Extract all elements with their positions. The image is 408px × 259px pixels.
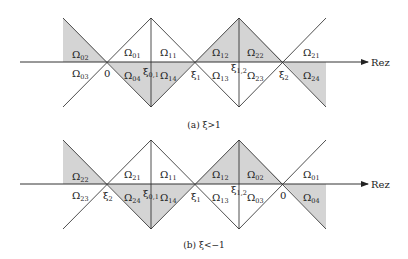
caption-a: (a) ξ>1 [187,120,220,130]
label-omega23-b: Ω23 [72,190,89,203]
riemann-hilbert-contour-figure: Rez Ω02 Ω03 Ω01 Ω04 Ω11 Ω14 Ω12 Ω13 Ω22 … [0,0,408,259]
label-omega01-a: Ω01 [124,47,141,60]
label-omega21-b: Ω21 [124,169,141,182]
label-omega11-a: Ω11 [160,47,177,60]
axis-label-b: Rez [371,179,390,190]
label-omega21-a: Ω21 [303,47,320,60]
panel-b: Rez Ω22 Ω23 Ω21 Ω24 Ω11 Ω14 Ω12 Ω13 Ω02 … [20,140,390,250]
label-omega11-b: Ω11 [160,169,177,182]
point-xi2-a: ξ2 [279,69,289,82]
point-xi2-b: ξ2 [103,190,113,203]
point-xi1-a: ξ1 [191,69,201,82]
label-omega01-b: Ω01 [303,169,320,182]
label-omega03-a: Ω03 [72,68,89,81]
label-omega03-b: Ω03 [247,192,264,205]
panel-a: Rez Ω02 Ω03 Ω01 Ω04 Ω11 Ω14 Ω12 Ω13 Ω22 … [20,18,390,130]
point-0-b: 0 [280,190,286,201]
label-omega13-b: Ω13 [212,192,229,205]
point-xi1-b: ξ1 [191,191,201,204]
label-omega23-a: Ω23 [247,70,264,83]
point-0-a: 0 [104,68,110,79]
caption-b: (b) ξ<−1 [183,240,224,250]
axis-label-a: Rez [371,57,390,68]
label-omega13-a: Ω13 [212,70,229,83]
